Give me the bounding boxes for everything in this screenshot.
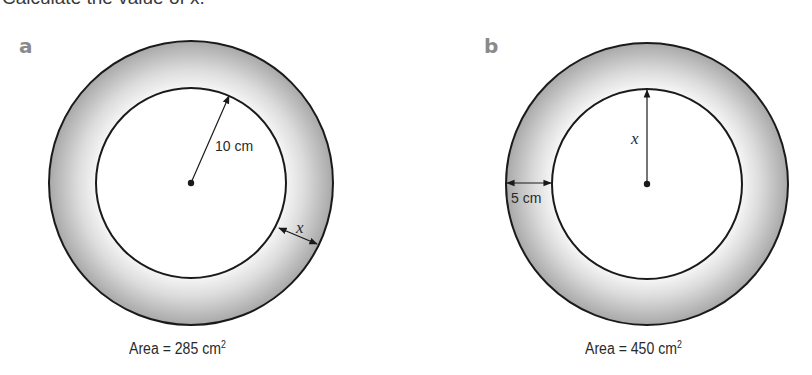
- area-caption-a: Area = 285 cm2: [129, 339, 226, 358]
- annulus-diagrams: 10 cm x x 5 cm: [0, 0, 812, 375]
- width-label-a: x: [295, 218, 304, 237]
- radius-label-a: 10 cm: [215, 138, 253, 154]
- area-text-a: Area = 285 cm: [129, 340, 221, 357]
- area-exponent-b: 2: [677, 339, 682, 350]
- radius-label-b: x: [630, 129, 639, 148]
- width-label-b: 5 cm: [511, 190, 541, 206]
- area-text-b: Area = 450 cm: [585, 340, 677, 357]
- area-caption-b: Area = 450 cm2: [585, 339, 682, 358]
- area-exponent-a: 2: [221, 339, 226, 350]
- figure-a: 10 cm x: [49, 41, 333, 325]
- figure-b: x 5 cm: [506, 43, 788, 325]
